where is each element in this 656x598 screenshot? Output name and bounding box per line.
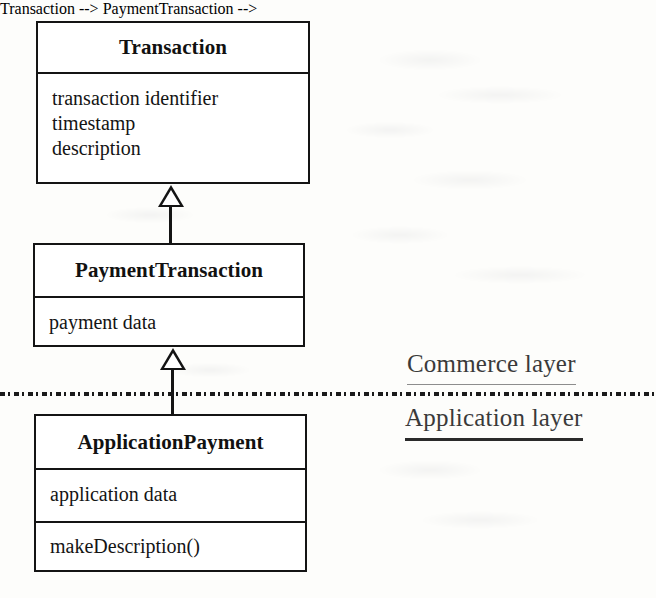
class-name-transaction: Transaction: [38, 23, 308, 72]
arrowhead-inner-fill: [164, 353, 182, 368]
layer-label-application: Application layer: [405, 404, 583, 432]
arrowhead-inner-fill: [162, 190, 180, 205]
operation-compartment-application-payment: makeDescription(): [36, 521, 305, 572]
uml-class-diagram: Transaction transaction identifier times…: [0, 0, 656, 598]
layer-label-application-text: Application layer: [405, 404, 583, 431]
class-box-application-payment[interactable]: ApplicationPayment application data make…: [34, 414, 307, 572]
class-name-application-payment: ApplicationPayment: [36, 416, 305, 468]
generalization-arrowhead-to-transaction: [158, 185, 184, 207]
attribute-compartment-payment-transaction: payment data: [35, 296, 303, 349]
attribute-item: application data: [36, 470, 305, 519]
class-name-payment-transaction: PaymentTransaction: [35, 245, 303, 296]
class-name-compartment-payment-transaction: PaymentTransaction: [35, 245, 303, 296]
class-name-compartment-application-payment: ApplicationPayment: [36, 416, 305, 468]
attribute-item: payment data: [35, 298, 303, 347]
generalization-line-payment-to-transaction: [169, 206, 172, 244]
attribute-item: timestamp: [38, 111, 308, 136]
layer-label-application-underline: [405, 438, 583, 441]
generalization-arrowhead-to-payment-transaction: [160, 348, 186, 370]
operation-item: makeDescription(): [36, 523, 305, 570]
class-box-payment-transaction[interactable]: PaymentTransaction payment data: [33, 243, 305, 347]
layer-label-commerce: Commerce layer: [407, 350, 576, 378]
layer-separator-dashed-line: [0, 392, 656, 396]
attribute-compartment-transaction: transaction identifier timestamp descrip…: [38, 72, 308, 182]
layer-label-commerce-underline: [407, 384, 576, 385]
class-box-transaction[interactable]: Transaction transaction identifier times…: [36, 21, 310, 184]
attribute-item: description: [38, 136, 308, 161]
layer-label-commerce-text: Commerce layer: [407, 350, 576, 377]
attribute-compartment-application-payment: application data: [36, 468, 305, 521]
attribute-item: transaction identifier: [38, 86, 308, 111]
class-name-compartment-transaction: Transaction: [38, 23, 308, 72]
